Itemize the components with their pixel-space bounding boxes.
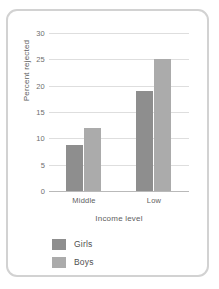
y-tick-label: 25 [36, 55, 45, 64]
bar-girls-middle [66, 145, 83, 191]
y-axis-title: Percent rejected [22, 11, 31, 131]
y-tick-label: 30 [36, 29, 45, 38]
legend-label: Boys [74, 257, 94, 267]
plot-area: 051015202530 MiddleLow [49, 33, 189, 191]
x-tick-label: Middle [54, 196, 114, 205]
bar-girls-low [136, 91, 153, 191]
chart-legend: GirlsBoys [52, 237, 94, 273]
y-tick-label: 0 [41, 187, 45, 196]
y-tick-label: 5 [41, 160, 45, 169]
x-tick-label: Low [124, 196, 184, 205]
bar-series-container: MiddleLow [49, 33, 189, 191]
bar-group: Middle [66, 33, 102, 191]
x-axis-title: Income level [49, 214, 189, 223]
x-axis-line: 0 [49, 191, 189, 192]
bar-boys-low [154, 59, 171, 191]
y-tick-label: 10 [36, 134, 45, 143]
legend-item-boys: Boys [52, 255, 94, 269]
chart-card: Percent rejected 051015202530 MiddleLow … [6, 9, 209, 277]
legend-label: Girls [74, 239, 92, 249]
bar-chart-figure: Percent rejected 051015202530 MiddleLow … [8, 11, 211, 279]
y-tick-label: 15 [36, 108, 45, 117]
legend-swatch-boys [52, 257, 66, 268]
bar-group: Low [136, 33, 172, 191]
legend-item-girls: Girls [52, 237, 94, 251]
legend-swatch-girls [52, 239, 66, 250]
bar-boys-middle [84, 128, 101, 191]
y-tick-label: 20 [36, 81, 45, 90]
